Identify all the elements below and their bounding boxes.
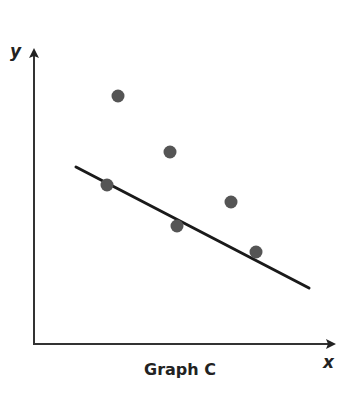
chart-caption: Graph C xyxy=(144,360,216,379)
y-axis-label: y xyxy=(10,41,22,61)
data-point xyxy=(164,146,177,159)
data-point xyxy=(225,196,238,209)
data-point xyxy=(101,179,114,192)
scatter-chart: y x Graph C xyxy=(0,0,351,405)
x-axis-label: x xyxy=(322,352,335,372)
data-point xyxy=(112,90,125,103)
data-points xyxy=(101,90,263,259)
data-point xyxy=(250,246,263,259)
data-point xyxy=(171,220,184,233)
